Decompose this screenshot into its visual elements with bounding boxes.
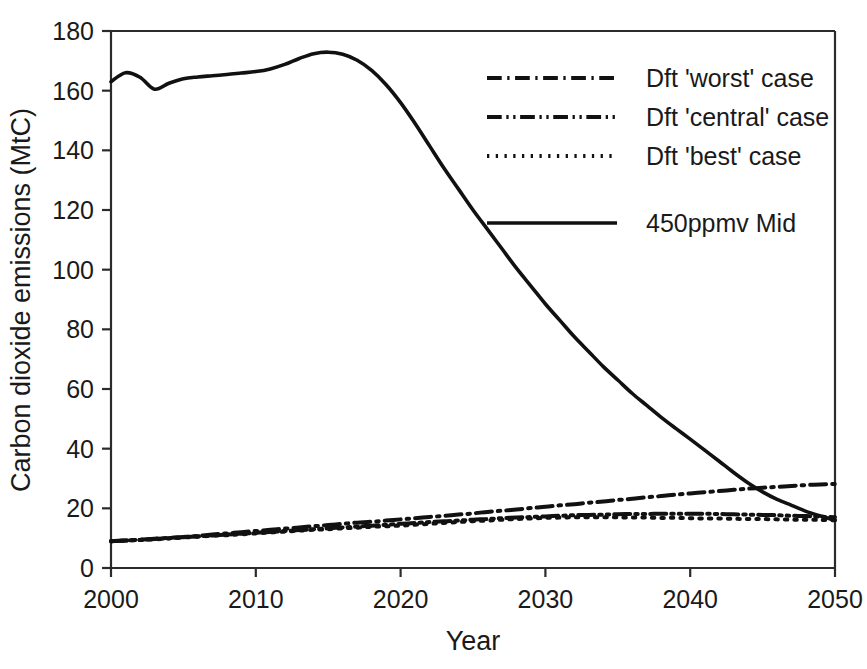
y-tick-label: 60 <box>66 375 94 403</box>
legend-label: Dft 'best' case <box>646 142 801 170</box>
x-tick-label: 2030 <box>518 585 574 613</box>
x-tick-label: 2000 <box>83 585 139 613</box>
legend-label: Dft 'central' case <box>646 103 829 131</box>
y-axis-title: Carbon dioxide emissions (MtC) <box>6 108 36 492</box>
y-tick-label: 20 <box>66 494 94 522</box>
x-axis-title: Year <box>446 626 501 656</box>
line-chart: 020406080100120140160180 200020102020203… <box>0 0 867 669</box>
y-tick-label: 80 <box>66 315 94 343</box>
y-tick-label: 120 <box>52 196 94 224</box>
legend-label: 450ppmv Mid <box>646 209 796 237</box>
y-tick-label: 100 <box>52 256 94 284</box>
legend-label: Dft 'worst' case <box>646 64 814 92</box>
y-tick-label: 140 <box>52 136 94 164</box>
x-tick-label: 2050 <box>807 585 863 613</box>
y-tick-label: 0 <box>80 554 94 582</box>
y-tick-label: 160 <box>52 77 94 105</box>
y-tick-label: 40 <box>66 435 94 463</box>
y-tick-label: 180 <box>52 17 94 45</box>
chart-figure: 020406080100120140160180 200020102020203… <box>0 0 867 669</box>
x-tick-label: 2010 <box>228 585 284 613</box>
x-tick-label: 2020 <box>373 585 429 613</box>
x-tick-label: 2040 <box>662 585 718 613</box>
